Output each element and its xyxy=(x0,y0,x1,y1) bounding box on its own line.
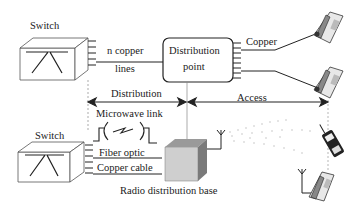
radio-distribution-base-icon xyxy=(165,139,207,181)
n-copper-label: n copper xyxy=(107,46,143,57)
cordless-telephone-icon xyxy=(309,172,334,201)
distribution-point-label-line2: point xyxy=(183,62,205,73)
telephone-icon xyxy=(314,67,343,98)
bottom-switch-icon xyxy=(18,142,84,182)
access-span-label: Access xyxy=(237,93,267,104)
radio-distribution-base-label: Radio distribution base xyxy=(120,186,217,197)
fiber-optic-label: Fiber optic xyxy=(99,148,145,159)
radio-signal-dots xyxy=(229,119,310,153)
antenna-icon xyxy=(298,169,312,193)
bottom-switch-label: Switch xyxy=(35,131,64,142)
microwave-link-label: Microwave link xyxy=(96,109,163,120)
microwave-link-icon xyxy=(93,122,157,143)
copper-cable-label: Copper cable xyxy=(97,163,153,174)
diagram-canvas xyxy=(0,0,360,210)
distribution-span-label: Distribution xyxy=(111,89,162,100)
top-switch-label: Switch xyxy=(30,21,59,32)
telephone-icon xyxy=(314,12,343,43)
mobile-phone-icon xyxy=(316,121,344,158)
lines-label: lines xyxy=(115,64,135,75)
copper-label: Copper xyxy=(246,37,277,48)
distribution-point-label-line1: Distribution xyxy=(169,46,220,57)
top-switch-icon xyxy=(20,38,88,80)
antenna-icon xyxy=(207,130,225,149)
